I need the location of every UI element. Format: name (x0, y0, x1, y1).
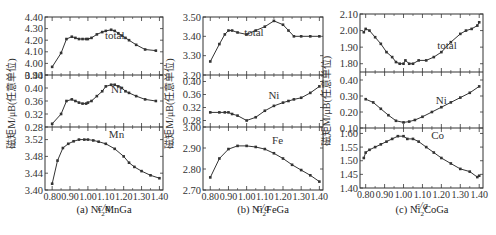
axes-frame (360, 14, 483, 188)
data-marker (309, 174, 312, 177)
y-axis-label: 磁矩M/μB(任意单位) (163, 58, 176, 148)
caption-a-suffix: MnGa (105, 204, 132, 215)
data-marker (140, 170, 143, 173)
data-marker (231, 29, 234, 32)
data-marker (87, 138, 90, 141)
data-marker (78, 38, 81, 41)
data-marker (273, 152, 276, 155)
data-marker (236, 31, 239, 34)
x-tick-label: 0.90 (376, 189, 394, 200)
x-tick-label: 1.30 (133, 191, 151, 202)
data-marker (459, 33, 462, 36)
data-marker (90, 100, 93, 103)
data-marker (60, 52, 63, 55)
caption-b-suffix: FeGa (266, 204, 289, 215)
data-marker (144, 48, 147, 51)
y-tick-label: 0.44 (25, 70, 44, 81)
data-marker (135, 44, 138, 47)
series-label: total (437, 39, 457, 51)
data-marker (402, 135, 405, 138)
x-tick-label: 0.80 (357, 189, 375, 200)
data-marker (380, 143, 383, 146)
series-line-ni (52, 85, 156, 124)
y-tick-label: 0.30 (340, 91, 358, 102)
y-tick-label: 1.50 (340, 155, 358, 166)
data-marker (78, 138, 81, 141)
data-marker (397, 135, 400, 138)
data-marker (51, 122, 54, 125)
y-tick-label: 1.55 (340, 142, 358, 153)
y-axis-label: 磁矩M/μB(任意单位) (5, 58, 18, 148)
data-marker (96, 33, 99, 36)
data-marker (309, 35, 312, 38)
y-tick-label: 0.36 (183, 89, 201, 100)
data-marker (372, 101, 375, 104)
data-marker (264, 109, 267, 112)
x-tick-label: 1.00 (238, 191, 256, 202)
x-tick-label: 1.30 (452, 189, 470, 200)
y-tick-label: 1.60 (340, 128, 358, 139)
series-label: Ni (436, 94, 447, 106)
caption-a-prefix: (a) Ni (76, 204, 101, 215)
data-marker (51, 182, 54, 185)
data-marker (264, 148, 267, 151)
y-tick-label: 0.28 (25, 122, 43, 133)
series-line-mn (52, 140, 159, 184)
y-tick-label: 4.40 (25, 12, 43, 23)
y-tick-label: 0.32 (25, 109, 43, 120)
data-marker (74, 37, 77, 40)
plot-canvas: 3.904.004.104.204.304.40total0.280.320.3… (0, 0, 496, 235)
series-line-fe (210, 146, 319, 182)
y-tick-label: 3.44 (25, 168, 44, 179)
chart-b: 3.203.303.403.50total0.280.320.360.40Ni2… (163, 12, 328, 214)
data-marker (450, 101, 453, 104)
data-marker (440, 157, 443, 160)
data-marker (218, 111, 221, 114)
x-tick-label: 0.80 (43, 191, 61, 202)
panel-co: 1.401.451.501.551.60Co (340, 128, 483, 194)
x-tick-label: 0.80 (202, 191, 220, 202)
data-marker (273, 105, 276, 108)
caption-c: (c) Ni2CoGa (396, 204, 449, 218)
y-tick-label: 3.00 (183, 122, 201, 133)
caption-b: (b) Ni2FeGa (237, 204, 289, 218)
data-marker (245, 145, 248, 148)
data-marker (227, 111, 230, 114)
series-label: Mn (109, 128, 125, 140)
data-marker (476, 24, 479, 27)
data-marker (56, 159, 59, 162)
y-tick-label: 2.90 (183, 143, 201, 154)
x-tick-label: 1.10 (256, 191, 274, 202)
caption-a: (a) Ni2MnGa (76, 204, 131, 218)
y-tick-label: 3.30 (183, 50, 201, 61)
y-tick-label: 4.00 (25, 58, 43, 69)
data-marker (459, 96, 462, 99)
y-tick-label: 0.36 (25, 96, 43, 107)
data-marker (124, 37, 127, 40)
data-marker (96, 95, 99, 98)
data-marker (209, 111, 212, 114)
data-marker (245, 119, 248, 122)
series-label: Fe (272, 134, 283, 146)
data-marker (209, 176, 212, 179)
data-marker (224, 111, 227, 114)
panel-ni: 0.280.320.360.40Ni (183, 75, 323, 127)
data-marker (387, 114, 390, 117)
chart-c: 1.801.902.002.10total0.100.200.300.40Ni1… (320, 9, 488, 212)
data-marker (282, 23, 285, 26)
x-tick-label: 1.00 (395, 189, 413, 200)
data-marker (62, 147, 65, 150)
data-marker (408, 120, 411, 123)
y-tick-label: 4.20 (25, 35, 43, 46)
data-marker (133, 166, 136, 169)
data-marker (364, 151, 367, 154)
series-line-co (364, 136, 479, 177)
x-tick-label: 1.40 (311, 191, 329, 202)
data-marker (128, 92, 131, 95)
data-marker (425, 146, 428, 149)
y-tick-label: 1.90 (340, 42, 358, 53)
data-marker (81, 38, 84, 41)
data-marker (227, 148, 230, 151)
data-marker (425, 59, 428, 62)
data-marker (71, 98, 74, 101)
